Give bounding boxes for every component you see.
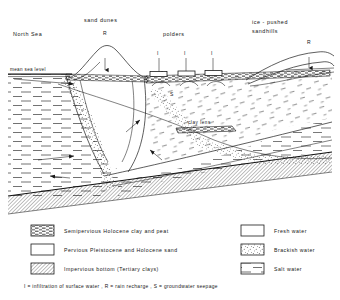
polder-ditch-3 [205,71,222,76]
legend-item-pervious: Pervious Pleistocene and Holocene sand [31,244,178,255]
recharge-marks-group: R R I I I [103,30,311,73]
legend-swatch-brackish-water [241,244,264,255]
label-recharge-dunes: R [103,30,107,36]
label-infiltration-2: I [184,50,186,56]
cross-section-body: clay lens mean sea level S [8,46,334,215]
legend-label-semipervious: Semipervious Holocene clay and peat [64,228,169,234]
label-sand-dunes: sand dunes [84,17,117,23]
label-polders: polders [163,31,185,37]
legend-swatch-salt-water [241,263,264,274]
label-clay-lens: clay lens [188,120,211,125]
legend-label-pervious: Pervious Pleistocene and Holocene sand [64,247,178,253]
dune-profile [68,46,146,79]
label-seepage: S [170,91,174,97]
label-sandhills: sandhills [252,28,278,34]
legend-item-salt-water: Salt water [241,263,302,274]
legend-item-semipervious: Semipervious Holocene clay and peat [31,225,169,236]
top-labels-group: North Sea sand dunes polders ice - pushe… [13,17,288,37]
legend-label-salt-water: Salt water [274,266,302,272]
legend-item-impervious: Impervious bottom (Tertiary clays) [31,263,159,274]
legend-swatch-pervious [31,244,54,255]
label-recharge-sandhills: R [307,39,311,45]
polder-ditch-2 [178,71,195,76]
legend-item-fresh-water: Fresh water [241,225,307,236]
legend-label-fresh-water: Fresh water [274,228,307,234]
legend-label-impervious: Impervious bottom (Tertiary clays) [64,266,159,272]
legend-label-brackish-water: Brackish water [274,247,315,253]
legend-swatch-impervious [31,263,54,274]
legend-footnote: I = infiltration of surface water , R = … [24,284,218,289]
legend-swatch-semipervious [31,225,54,236]
polder-ditch-1 [150,72,167,77]
label-mean-sea-level: mean sea level [10,67,46,72]
hydrogeological-cross-section-figure: North Sea sand dunes polders ice - pushe… [0,0,340,300]
figure-canvas: North Sea sand dunes polders ice - pushe… [0,0,340,300]
label-north-sea: North Sea [13,31,42,37]
legend-group: Semipervious Holocene clay and peat Perv… [24,225,315,289]
legend-item-brackish-water: Brackish water [241,244,315,255]
sandhills-water-table [286,68,334,70]
legend-swatch-fresh-water [241,225,264,236]
label-infiltration-1: I [157,50,159,56]
label-ice-pushed: ice - pushed [252,19,288,25]
label-infiltration-3: I [211,50,213,56]
